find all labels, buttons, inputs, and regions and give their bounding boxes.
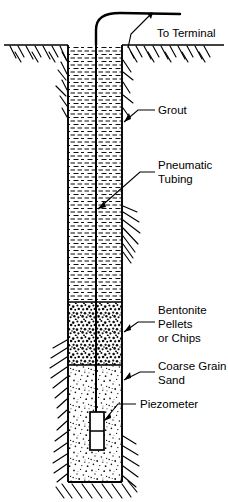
label-tubing: Tubing xyxy=(158,173,193,185)
label-grout: Grout xyxy=(158,104,188,116)
label-to-terminal: To Terminal xyxy=(157,27,216,39)
label-piezometer: Piezometer xyxy=(140,398,198,410)
piezometer-body xyxy=(90,412,104,450)
label-bentonite: Bentonite xyxy=(158,304,207,316)
label-pneumatic: Pneumatic xyxy=(158,159,213,171)
label-or-chips: or Chips xyxy=(158,332,201,344)
label-sand: Sand xyxy=(158,374,185,386)
label-pellets: Pellets xyxy=(158,318,193,330)
label-coarse-grain: Coarse Grain xyxy=(158,360,226,372)
borehole-cross-section-svg: To Terminal Grout Pneumatic Tubing Bento… xyxy=(0,0,228,502)
borehole-diagram: To Terminal Grout Pneumatic Tubing Bento… xyxy=(0,0,228,502)
